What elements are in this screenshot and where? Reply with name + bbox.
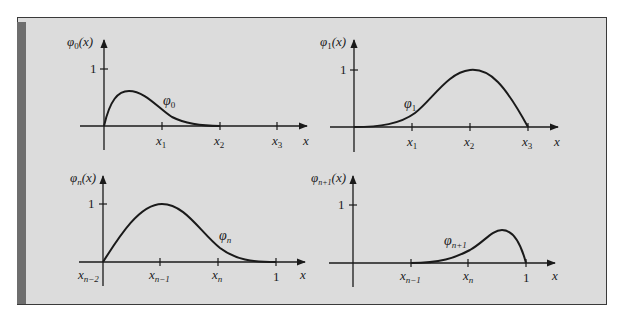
x-axis-label: x bbox=[302, 133, 309, 148]
y-axis-label: φ0(x) bbox=[67, 34, 93, 51]
y-axis-label: φn+1(x) bbox=[311, 170, 346, 187]
x-tick-label-1: xn−1 bbox=[148, 267, 170, 284]
curve-label: φn+1 bbox=[444, 233, 467, 250]
x-tick-label-2: x2 bbox=[213, 133, 224, 150]
x-tick-label-3: 1 bbox=[273, 269, 280, 284]
curve-phi1 bbox=[354, 70, 528, 127]
panel-phin: φn(x) 1 x xn−2 xn−1 xn 1 φn bbox=[70, 170, 306, 286]
x-tick-label-2: x2 bbox=[463, 134, 474, 151]
x-tick-label-3: x3 bbox=[271, 133, 283, 150]
curve-label: φ0 bbox=[163, 93, 176, 110]
x-tick-label-3: 1 bbox=[523, 270, 530, 285]
curve-phi0 bbox=[104, 91, 220, 126]
y-tick-label: 1 bbox=[90, 61, 97, 76]
panel-phin1: φn+1(x) 1 x xn−1 xn 1 φn+1 bbox=[311, 170, 558, 287]
y-axis-label: φ1(x) bbox=[320, 34, 346, 51]
panel-phi0: φ0(x) 1 x x1 x2 x3 φ0 bbox=[67, 34, 309, 150]
x-axis-label: x bbox=[299, 267, 306, 282]
y-tick-label: 1 bbox=[340, 62, 347, 77]
y-tick-label: 1 bbox=[88, 196, 95, 211]
x-tick-label-1: x1 bbox=[406, 134, 417, 151]
y-axis-label: φn(x) bbox=[70, 170, 96, 187]
x-tick-label-3: x3 bbox=[521, 134, 533, 151]
x-tick-label-1: x1 bbox=[155, 133, 166, 150]
x-tick-label-2: xn bbox=[462, 268, 474, 285]
panel-phi1: φ1(x) 1 x x1 x2 x3 φ1 bbox=[320, 34, 560, 152]
curve-phin1 bbox=[411, 230, 526, 263]
curve-label: φ1 bbox=[404, 96, 416, 113]
x-tick-label-1: xn−1 bbox=[399, 268, 421, 285]
curve-phin bbox=[103, 204, 276, 262]
curve-label: φn bbox=[219, 228, 232, 245]
y-tick-label: 1 bbox=[338, 197, 345, 212]
x-axis-label: x bbox=[553, 134, 560, 149]
x-axis-label: x bbox=[551, 268, 558, 283]
x-tick-label-2: xn bbox=[211, 267, 223, 284]
basis-functions-figure: φ0(x) 1 x x1 x2 x3 φ0 φ1(x) 1 x x1 x2 x3… bbox=[0, 0, 627, 321]
origin-label: xn−2 bbox=[77, 267, 99, 284]
